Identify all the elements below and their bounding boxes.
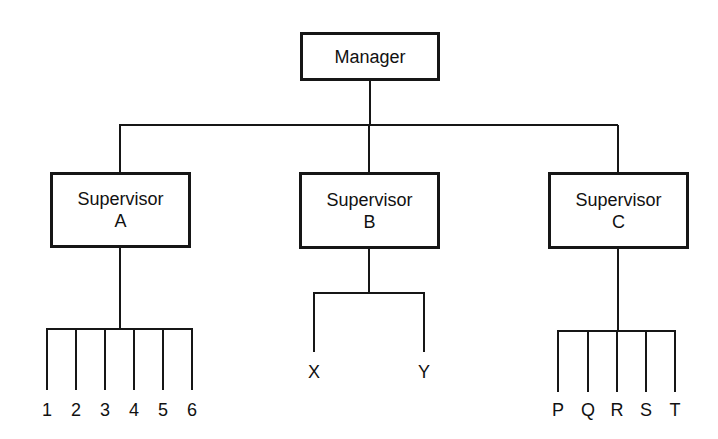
- supervisor-c-letter: C: [612, 211, 625, 233]
- report-label: 2: [71, 400, 81, 421]
- manager-label: Manager: [334, 46, 405, 68]
- supervisor-c-title: Supervisor: [575, 189, 661, 211]
- report-label: 6: [187, 400, 197, 421]
- report-label: T: [670, 400, 681, 421]
- report-label: 4: [129, 400, 139, 421]
- report-label: 5: [158, 400, 168, 421]
- report-label: X: [308, 362, 320, 383]
- report-label: R: [611, 400, 624, 421]
- report-label: Y: [418, 362, 430, 383]
- supervisor-a-title: Supervisor: [77, 188, 163, 210]
- report-label: 3: [100, 400, 110, 421]
- supervisor-b-box: Supervisor B: [299, 172, 440, 249]
- manager-box: Manager: [300, 32, 440, 81]
- supervisor-b-title: Supervisor: [326, 189, 412, 211]
- report-label: S: [640, 400, 652, 421]
- report-label: P: [552, 400, 564, 421]
- supervisor-c-box: Supervisor C: [548, 172, 689, 249]
- supervisor-b-letter: B: [363, 211, 375, 233]
- report-label: Q: [581, 400, 595, 421]
- supervisor-a-box: Supervisor A: [50, 172, 191, 248]
- report-label: 1: [42, 400, 52, 421]
- supervisor-a-letter: A: [114, 210, 126, 232]
